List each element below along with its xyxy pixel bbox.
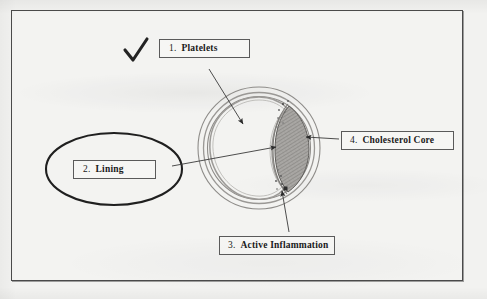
callout-lining[interactable]: 2. Lining — [73, 160, 156, 179]
callout-lining-label: Lining — [96, 165, 124, 175]
callout-cholesterol-number: 4. — [350, 136, 358, 146]
leader-line-cholesterol — [306, 137, 339, 139]
artery-cross-section — [198, 87, 320, 209]
callout-platelets-number: 1. — [169, 44, 177, 54]
leader-line-lining — [172, 147, 276, 166]
callout-cholesterol[interactable]: 4. Cholesterol Core — [341, 131, 454, 150]
callout-platelets[interactable]: 1. Platelets — [159, 39, 250, 58]
callout-cholesterol-label: Cholesterol Core — [363, 136, 435, 146]
callout-inflammation[interactable]: 3. Active Inflammation — [219, 236, 335, 255]
callout-inflammation-number: 3. — [228, 241, 236, 251]
callout-lining-number: 2. — [83, 165, 91, 175]
callout-platelets-label: Platelets — [182, 44, 218, 54]
inflammation-marker — [284, 187, 288, 191]
callout-inflammation-label: Active Inflammation — [241, 241, 329, 251]
scanned-page: 1. Platelets 2. Lining 3. Active Inflamm… — [0, 0, 487, 299]
checkmark-icon — [125, 39, 147, 60]
